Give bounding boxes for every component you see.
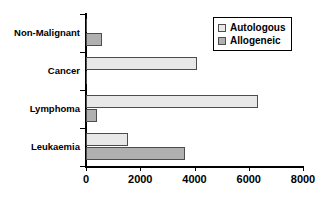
y-axis-label-lymphoma: Lymphoma — [2, 104, 80, 114]
legend-swatch-icon-allogeneic — [218, 37, 226, 45]
legend-swatch-icon-autologous — [218, 24, 226, 32]
bar-autologous-leukaemia — [86, 133, 128, 146]
x-axis-tick — [86, 166, 87, 171]
bar-allogeneic-leukaemia — [86, 147, 185, 160]
x-axis-tick — [249, 166, 250, 171]
legend-item-allogeneic: Allogeneic — [218, 34, 286, 47]
chart-legend: Autologous Allogeneic — [213, 17, 292, 51]
x-axis-tick — [303, 166, 304, 171]
bar-allogeneic-non-malignant — [86, 33, 102, 46]
bar-allogeneic-cancer — [86, 71, 87, 84]
bar-group — [86, 128, 303, 166]
legend-label-autologous: Autologous — [230, 23, 286, 33]
legend-item-autologous: Autologous — [218, 21, 286, 34]
y-axis-label-non-malignant: Non-Malignant — [2, 28, 80, 38]
x-axis-tick — [140, 166, 141, 171]
legend-label-allogeneic: Allogeneic — [230, 36, 281, 46]
x-axis-tick-label: 8000 — [291, 173, 315, 185]
bar-autologous-non-malignant — [86, 19, 87, 32]
x-axis-tick-label: 4000 — [182, 173, 206, 185]
bar-group — [86, 90, 303, 128]
bar-chart: Non-MalignantCancerLymphomaLeukaemia 020… — [0, 0, 326, 197]
bar-autologous-cancer — [86, 57, 197, 70]
y-axis-label-cancer: Cancer — [2, 66, 80, 76]
x-axis-tick-label: 0 — [83, 173, 89, 185]
y-axis-category-labels: Non-MalignantCancerLymphomaLeukaemia — [0, 14, 80, 166]
bar-allogeneic-lymphoma — [86, 109, 97, 122]
y-axis-label-leukaemia: Leukaemia — [2, 142, 80, 152]
bar-autologous-lymphoma — [86, 95, 258, 108]
x-axis-tick-label: 6000 — [237, 173, 261, 185]
bar-group — [86, 52, 303, 90]
x-axis-tick — [195, 166, 196, 171]
x-axis-tick-label: 2000 — [128, 173, 152, 185]
